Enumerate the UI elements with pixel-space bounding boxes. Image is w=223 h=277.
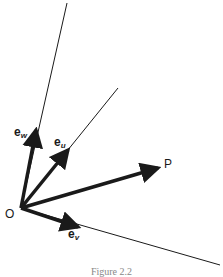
- op-vector-arrow: [21, 168, 158, 208]
- ev-vector-arrow: [21, 208, 78, 227]
- eu-label: eu: [54, 136, 66, 150]
- ev-label: ev: [68, 228, 79, 242]
- ew-label: ew: [14, 126, 27, 140]
- origin-label: O: [5, 208, 14, 220]
- figure-caption: Figure 2.2: [0, 266, 223, 277]
- point-p-label: P: [164, 158, 172, 170]
